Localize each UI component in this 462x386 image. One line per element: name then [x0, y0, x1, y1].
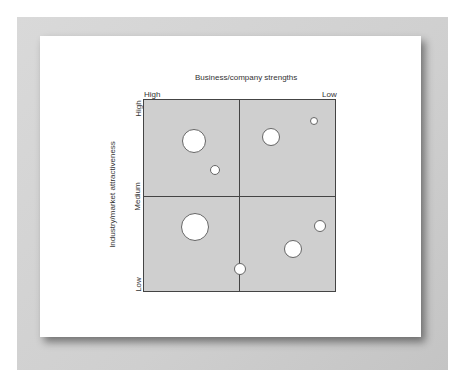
y-axis-low-label: Low: [134, 275, 143, 295]
bubble-bottom-right: [314, 220, 326, 232]
bubble-top-right: [262, 128, 280, 146]
y-axis-medium-label: Medium: [133, 182, 142, 212]
x-axis-low-label: Low: [322, 90, 337, 99]
x-axis-title: Business/company strengths: [195, 73, 297, 82]
y-axis-title: Industry/market attractiveness: [108, 135, 117, 255]
y-axis-high-label: High: [134, 99, 143, 119]
bubble-bottom-center-line: [234, 263, 246, 275]
bubble-top-left: [182, 129, 206, 153]
bubble-top-right: [310, 117, 318, 125]
bubble-top-left: [210, 165, 220, 175]
bubble-bottom-left: [181, 213, 209, 241]
horizontal-divider: [144, 196, 335, 197]
x-axis-high-label: High: [144, 90, 160, 99]
bubble-bottom-right: [284, 240, 302, 258]
